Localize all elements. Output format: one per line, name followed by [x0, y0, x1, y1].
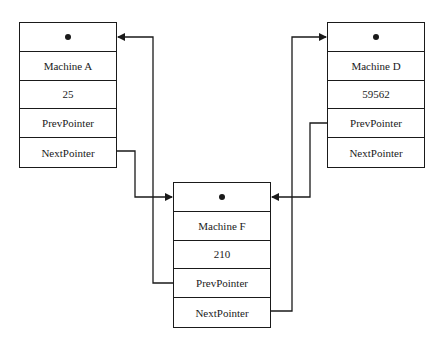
value-cell: 25 [20, 81, 116, 110]
prev-pointer-cell: PrevPointer [328, 109, 424, 138]
value-cell: 59562 [328, 81, 424, 110]
name-cell: Machine A [20, 52, 116, 81]
edge-f-prev-to-a [118, 37, 173, 283]
name-cell: Machine D [328, 52, 424, 81]
next-pointer-cell: NextPointer [174, 298, 270, 327]
edge-d-prev-to-f [272, 123, 327, 197]
edge-f-next-to-d [271, 37, 326, 311]
node-machine-a: Machine A 25 PrevPointer NextPointer [19, 22, 117, 168]
node-machine-d: Machine D 59562 PrevPointer NextPointer [327, 22, 425, 168]
edge-a-next-to-f [117, 151, 172, 197]
next-pointer-cell: NextPointer [20, 138, 116, 167]
pointer-dot-icon [219, 194, 225, 200]
next-pointer-cell: NextPointer [328, 138, 424, 167]
pointer-dot-icon [65, 34, 71, 40]
name-cell: Machine F [174, 212, 270, 241]
head-cell [174, 183, 270, 212]
prev-pointer-cell: PrevPointer [20, 109, 116, 138]
pointer-dot-icon [373, 34, 379, 40]
head-cell [20, 23, 116, 52]
prev-pointer-cell: PrevPointer [174, 269, 270, 298]
node-machine-f: Machine F 210 PrevPointer NextPointer [173, 182, 271, 328]
value-cell: 210 [174, 241, 270, 270]
head-cell [328, 23, 424, 52]
